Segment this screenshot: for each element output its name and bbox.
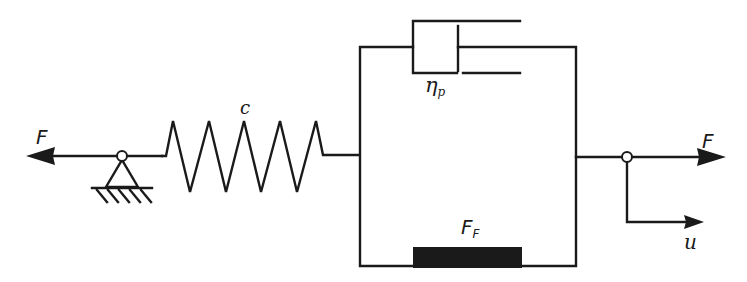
output-node	[622, 152, 632, 162]
dashpot-symbol: η	[425, 73, 438, 97]
force-right-label: F	[702, 131, 714, 151]
friction-symbol: F	[461, 215, 473, 239]
diagram-canvas	[0, 0, 747, 282]
force-left-label: F	[36, 127, 48, 147]
dashpot-label: ηp	[425, 75, 445, 98]
ground-support-icon	[92, 151, 162, 202]
spring-icon	[162, 121, 359, 192]
displacement-arrow	[627, 162, 704, 229]
friction-label: FF	[461, 217, 479, 240]
friction-element-icon	[413, 247, 522, 268]
rheological-model-diagram: F c ηp FF F u	[0, 0, 747, 282]
displacement-label: u	[684, 232, 697, 252]
force-arrow-left	[26, 147, 117, 165]
spring-label: c	[240, 99, 250, 117]
dashpot-subscript: p	[438, 85, 446, 99]
friction-subscript: F	[473, 227, 480, 241]
